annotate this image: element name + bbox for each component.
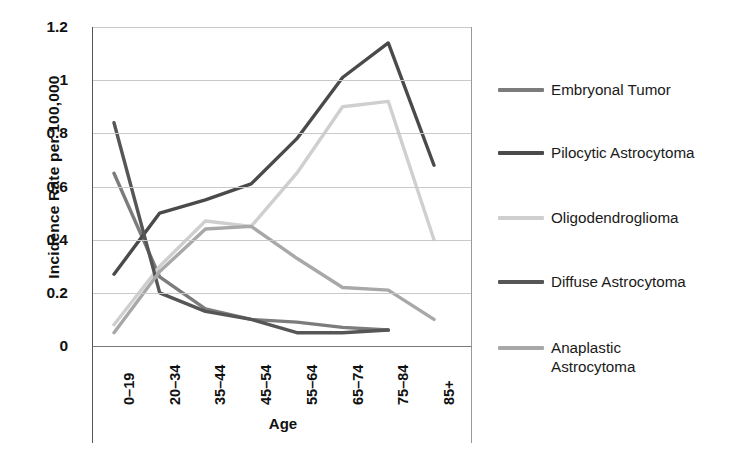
y-tick-label: 1 bbox=[16, 72, 68, 88]
legend-swatch bbox=[498, 280, 544, 284]
y-tick-label: 0.8 bbox=[16, 125, 68, 141]
x-tick-label: 35–44 bbox=[212, 365, 228, 405]
legend-swatch bbox=[498, 151, 544, 155]
chart-figure: Incidence Rate per 100,000 1.210.80.60.4… bbox=[0, 0, 734, 466]
legend-item[interactable]: Pilocytic Astrocytoma bbox=[498, 143, 694, 162]
series-line bbox=[114, 173, 388, 330]
legend-item[interactable]: Anaplastic Astrocytoma bbox=[498, 338, 661, 377]
x-axis-area: Age 0–1920–3435–4445–5455–6465–7475–8485… bbox=[92, 346, 472, 443]
legend-label: Pilocytic Astrocytoma bbox=[551, 143, 694, 162]
y-tick-label: 0.6 bbox=[16, 179, 68, 195]
y-axis-tick-labels: 1.210.80.60.40.20 bbox=[16, 0, 68, 466]
plot-area bbox=[92, 27, 472, 346]
y-tick-label: 0.2 bbox=[16, 285, 68, 301]
legend-swatch bbox=[498, 216, 544, 220]
legend-swatch bbox=[498, 346, 544, 350]
x-tick-label: 0–19 bbox=[121, 373, 137, 405]
x-tick-label: 20–34 bbox=[167, 365, 183, 405]
x-tick-label: 85+ bbox=[441, 380, 457, 405]
gridline bbox=[93, 293, 471, 294]
x-tick-label: 55–64 bbox=[304, 365, 320, 405]
x-axis-title: Age bbox=[93, 415, 473, 432]
gridline bbox=[93, 27, 471, 28]
y-tick-label: 0.4 bbox=[16, 232, 68, 248]
gridline bbox=[93, 187, 471, 188]
gridline bbox=[93, 240, 471, 241]
legend-item[interactable]: Embryonal Tumor bbox=[498, 80, 671, 99]
legend-label: Oligodendroglioma bbox=[551, 208, 679, 227]
legend-label: Diffuse Astrocytoma bbox=[551, 272, 686, 291]
gridline bbox=[93, 133, 471, 134]
legend-label: Embryonal Tumor bbox=[551, 80, 671, 99]
y-tick-label: 0 bbox=[16, 338, 68, 354]
legend-item[interactable]: Diffuse Astrocytoma bbox=[498, 272, 686, 291]
x-tick-label: 45–54 bbox=[258, 365, 274, 405]
legend-label: Anaplastic Astrocytoma bbox=[551, 338, 661, 377]
x-tick-label: 75–84 bbox=[395, 365, 411, 405]
x-tick-label: 65–74 bbox=[350, 365, 366, 405]
gridline bbox=[93, 80, 471, 81]
legend-swatch bbox=[498, 88, 544, 92]
legend-item[interactable]: Oligodendroglioma bbox=[498, 208, 679, 227]
y-tick-label: 1.2 bbox=[16, 19, 68, 35]
